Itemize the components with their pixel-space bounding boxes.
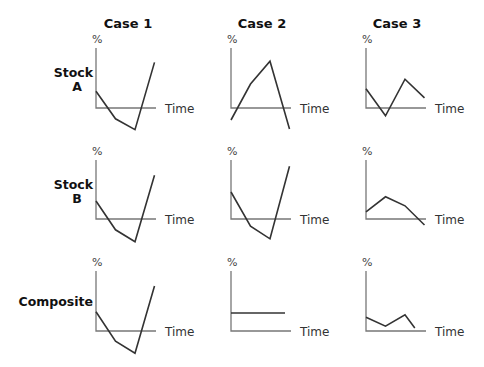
data-series-line bbox=[231, 61, 290, 129]
x-axis-label: Time bbox=[164, 102, 194, 116]
y-axis-label: % bbox=[92, 33, 102, 46]
data-series-line bbox=[366, 197, 425, 225]
axes bbox=[96, 160, 156, 219]
row-label-composite: Composite bbox=[19, 294, 94, 309]
panel-stock-b-case-1: %Time bbox=[92, 145, 194, 242]
panel-stock-a-case-2: %Time bbox=[227, 33, 329, 129]
data-series-line bbox=[366, 315, 415, 328]
x-axis-label: Time bbox=[299, 213, 329, 227]
column-title-case-3: Case 3 bbox=[373, 16, 421, 31]
x-axis-label: Time bbox=[164, 325, 194, 339]
row-label-stock-b-line2: B bbox=[72, 191, 82, 206]
x-axis-label: Time bbox=[299, 325, 329, 339]
axes bbox=[366, 48, 426, 108]
x-axis-label: Time bbox=[434, 213, 464, 227]
data-series-line bbox=[366, 79, 425, 116]
y-axis-label: % bbox=[92, 145, 102, 158]
panel-composite-case-1: %Time bbox=[92, 256, 194, 353]
y-axis-label: % bbox=[227, 145, 237, 158]
y-axis-label: % bbox=[227, 256, 237, 269]
panel-stock-b-case-3: %Time bbox=[362, 145, 464, 227]
row-label-stock-b-line1: Stock bbox=[54, 177, 94, 192]
panel-composite-case-2: %Time bbox=[227, 256, 329, 339]
x-axis-label: Time bbox=[299, 102, 329, 116]
axes bbox=[231, 160, 291, 219]
data-series-line bbox=[231, 166, 290, 239]
y-axis-label: % bbox=[362, 256, 372, 269]
x-axis-label: Time bbox=[164, 213, 194, 227]
y-axis-label: % bbox=[362, 33, 372, 46]
axes bbox=[96, 48, 156, 108]
axes bbox=[231, 271, 291, 331]
panel-stock-a-case-3: %Time bbox=[362, 33, 464, 116]
y-axis-label: % bbox=[227, 33, 237, 46]
row-label-stock-a-line1: Stock bbox=[54, 65, 94, 80]
column-title-case-2: Case 2 bbox=[238, 16, 286, 31]
panel-stock-b-case-2: %Time bbox=[227, 145, 329, 239]
data-series-line bbox=[96, 175, 155, 242]
panel-composite-case-3: %Time bbox=[362, 256, 464, 339]
column-title-case-1: Case 1 bbox=[104, 16, 152, 31]
x-axis-label: Time bbox=[434, 102, 464, 116]
axes bbox=[231, 48, 291, 108]
x-axis-label: Time bbox=[434, 325, 464, 339]
small-multiples-figure: Case 1 Case 2 Case 3 Stock A Stock B Com… bbox=[0, 0, 484, 367]
panel-stock-a-case-1: %Time bbox=[92, 33, 194, 130]
data-series-line bbox=[96, 62, 155, 129]
axes bbox=[366, 160, 426, 219]
y-axis-label: % bbox=[92, 256, 102, 269]
axes bbox=[96, 271, 156, 331]
data-series-line bbox=[96, 286, 155, 353]
row-label-stock-a-line2: A bbox=[72, 79, 82, 94]
y-axis-label: % bbox=[362, 145, 372, 158]
